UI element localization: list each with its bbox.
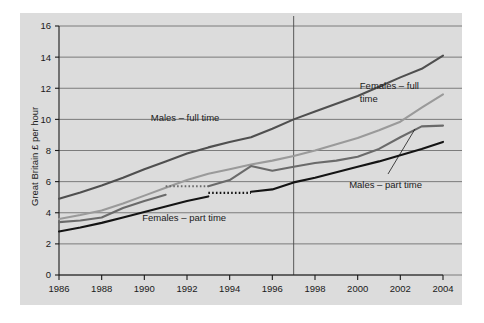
y-tick-label-6: 6 [46,176,51,187]
y-tick-label-16: 16 [40,20,51,31]
x-tick-label-2002: 2002 [390,283,411,294]
x-tick-group: 1986198819901992199419961998200020022004 [48,275,453,294]
gridline-group [59,26,462,275]
y-tick-label-10: 10 [40,114,51,125]
x-tick-label-1990: 1990 [134,283,155,294]
series-line-females-full-time [59,94,443,219]
y-tick-label-2: 2 [46,238,51,249]
y-tick-label-8: 8 [46,145,51,156]
x-tick-label-2000: 2000 [347,283,368,294]
chart-figure: 0246810121416 19861988199019921994199619… [0,0,484,323]
x-tick-label-1996: 1996 [262,283,283,294]
series-annotation-males-part-time: Males – part time [349,179,422,190]
y-tick-group: 0246810121416 [40,20,59,280]
x-tick-label-1994: 1994 [219,283,240,294]
x-tick-label-1992: 1992 [176,283,197,294]
x-tick-label-1988: 1988 [91,283,112,294]
series-annotation-females-full-time-line2: time [360,93,378,104]
series-annotation-males-full-time: Males – full time [151,112,220,123]
y-tick-label-14: 14 [40,52,51,63]
y-tick-label-12: 12 [40,83,51,94]
series-annotation-females-full-time-line1: Females – full [360,80,419,91]
line-chart: 0246810121416 19861988199019921994199619… [0,0,484,323]
series-annotation-females-part-time: Females – part time [142,212,226,223]
y-tick-label-4: 4 [46,207,51,218]
y-axis-title: Great Britain £ per hour [29,107,40,206]
y-tick-label-0: 0 [46,269,51,280]
series-line-males-part-time-b [208,126,443,187]
x-tick-label-1986: 1986 [48,283,69,294]
x-tick-label-2004: 2004 [432,283,453,294]
x-tick-label-1998: 1998 [304,283,325,294]
